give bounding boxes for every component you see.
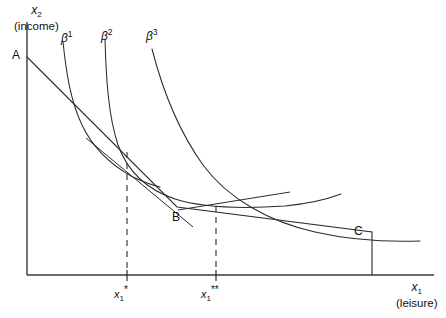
tick-label-x1-star: x1* xyxy=(114,284,128,304)
tick-x1-star-star-subscript: 1 xyxy=(207,294,211,303)
curve-label-beta2: β2 xyxy=(101,28,113,43)
tick-x1-star-subscript: 1 xyxy=(120,294,124,303)
y-axis-subscript: 2 xyxy=(37,10,41,19)
beta2-exponent: 2 xyxy=(108,27,113,37)
point-label-a: A xyxy=(12,49,20,62)
y-axis-label: x2 (income) xyxy=(14,4,59,33)
diagram-canvas xyxy=(0,0,446,318)
tick-x1-star-stars: * xyxy=(124,284,128,295)
point-label-c: C xyxy=(354,225,363,238)
curve-label-beta1: β1 xyxy=(61,30,73,45)
indifference-curve-beta2 xyxy=(105,39,341,207)
beta3-symbol: β xyxy=(146,29,153,43)
x-axis-label: x1 (leisure) xyxy=(396,281,438,310)
x-axis-subscript: 1 xyxy=(418,287,422,296)
indifference-curve-beta3 xyxy=(152,49,420,241)
beta3-exponent: 3 xyxy=(153,27,158,37)
point-label-b: B xyxy=(172,211,180,224)
beta2-symbol: β xyxy=(101,29,108,43)
y-axis-caption: (income) xyxy=(14,20,59,33)
curve-label-beta3: β3 xyxy=(146,28,158,43)
economics-diagram: x2 (income) x1 (leisure) A B C β1 β2 β3 … xyxy=(0,0,446,318)
beta1-symbol: β xyxy=(61,31,68,45)
tick-x1-star-star-stars: ** xyxy=(211,284,219,295)
x-axis-caption: (leisure) xyxy=(396,297,438,310)
budget-constraint xyxy=(27,57,372,275)
tick-label-x1-star-star: x1** xyxy=(201,284,219,304)
indifference-curve-beta1 xyxy=(63,42,160,187)
beta1-exponent: 1 xyxy=(68,29,73,39)
